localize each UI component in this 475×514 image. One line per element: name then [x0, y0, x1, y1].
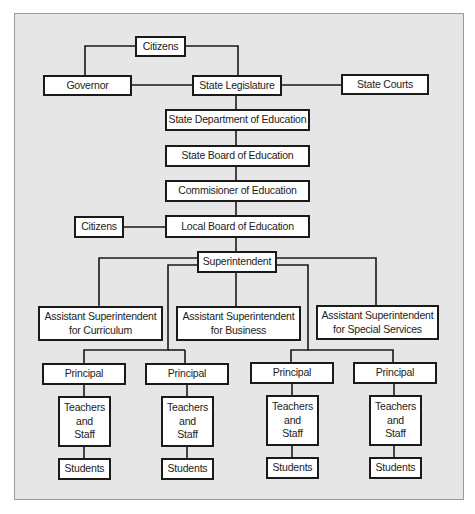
node-students-1: Students: [58, 458, 111, 480]
node-principal-2: Principal: [145, 363, 229, 385]
node-state-courts: State Courts: [341, 74, 429, 95]
node-governor: Governor: [43, 75, 132, 96]
node-teachers-staff-4: TeachersandStaff: [369, 395, 422, 446]
node-local-board: Local Board of Education: [165, 215, 310, 238]
node-superintendent: Superintendent: [197, 251, 277, 273]
node-state-dept-education: State Department of Education: [165, 109, 310, 131]
node-students-2: Students: [161, 458, 214, 480]
node-teachers-staff-2: TeachersandStaff: [161, 396, 214, 447]
node-principal-3: Principal: [250, 362, 334, 384]
node-citizens-local: Citizens: [74, 216, 124, 238]
node-students-3: Students: [266, 457, 319, 479]
node-asst-business: Assistant Superintendentfor Business: [176, 306, 301, 341]
node-principal-1: Principal: [42, 363, 126, 385]
node-state-legislature: State Legislature: [192, 75, 282, 96]
node-asst-curriculum: Assistant Superintendentfor Curriculum: [38, 306, 163, 341]
node-asst-special: Assistant Superintendentfor Special Serv…: [316, 305, 439, 340]
node-teachers-staff-3: TeachersandStaff: [266, 395, 319, 446]
node-citizens-top: Citizens: [135, 36, 186, 57]
node-principal-4: Principal: [353, 362, 437, 384]
node-state-board-education: State Board of Education: [165, 145, 310, 167]
node-commissioner: Commisioner of Education: [165, 180, 310, 202]
node-students-4: Students: [369, 457, 422, 479]
node-teachers-staff-1: TeachersandStaff: [58, 396, 111, 447]
